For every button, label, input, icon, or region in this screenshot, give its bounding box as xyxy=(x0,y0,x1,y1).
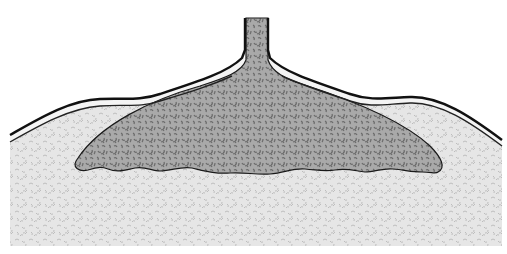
intrusion-body xyxy=(75,18,442,174)
laccolith-diagram xyxy=(0,0,507,254)
